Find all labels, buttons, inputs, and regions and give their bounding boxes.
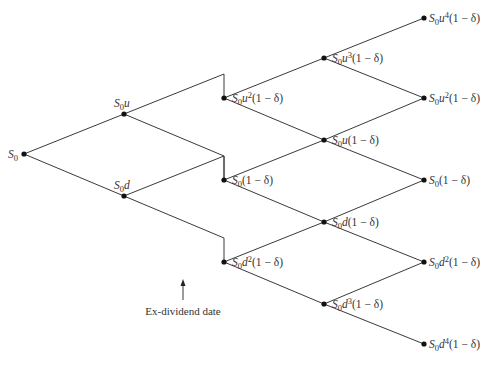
tree-node-n4b	[421, 95, 426, 100]
node-label-n3c: S0d(1 − δ)	[332, 216, 379, 231]
dividend-drop-edge	[124, 74, 224, 114]
node-label-n2b: S0(1 − δ)	[232, 174, 273, 189]
tree-edge	[224, 140, 324, 180]
tree-node-n4e	[421, 341, 426, 346]
node-label-n4e: S0d4(1 − δ)	[429, 336, 480, 353]
tree-edge	[24, 114, 124, 154]
dividend-drop-edge	[124, 114, 224, 180]
node-label-n4d: S0d2(1 − δ)	[429, 254, 480, 271]
tree-node-n3c	[321, 219, 326, 224]
tree-node-n2c	[221, 259, 226, 264]
node-label-n3a: S0u3(1 − δ)	[332, 50, 383, 67]
dividend-jump-edges	[124, 74, 224, 262]
node-label-n3d: S0d3(1 − δ)	[332, 296, 383, 313]
node-labels: S0S0uS0dS0u2(1 − δ)S0(1 − δ)S0d2(1 − δ)S…	[8, 10, 480, 353]
binomial-tree-diagram: S0S0uS0dS0u2(1 − δ)S0(1 − δ)S0d2(1 − δ)S…	[0, 0, 497, 366]
ex-dividend-label: Ex-dividend date	[145, 305, 221, 317]
tree-edge	[24, 154, 124, 196]
node-label-n3b: S0u(1 − δ)	[332, 134, 379, 149]
node-label-n1d: S0d	[114, 179, 130, 194]
node-label-n2c: S0d2(1 − δ)	[232, 254, 283, 271]
tree-node-n3a	[321, 55, 326, 60]
tree-node-n4c	[421, 177, 426, 182]
arrow-up-icon	[181, 279, 186, 286]
tree-node-n3d	[321, 301, 326, 306]
tree-node-n1u	[121, 111, 126, 116]
tree-node-n4d	[421, 259, 426, 264]
dividend-drop-edge	[124, 156, 224, 196]
ex-dividend-annotation: Ex-dividend date	[145, 279, 221, 317]
node-label-n1u: S0u	[114, 97, 130, 112]
dividend-drop-edge	[124, 196, 224, 262]
node-label-n4b: S0u2(1 − δ)	[429, 90, 480, 107]
tree-node-n0	[21, 151, 26, 156]
tree-node-n2b	[221, 177, 226, 182]
tree-node-n2a	[221, 95, 226, 100]
node-label-n0: S0	[8, 148, 18, 163]
tree-node-n3b	[321, 137, 326, 142]
tree-node-n1d	[121, 193, 126, 198]
tree-node-n4a	[421, 15, 426, 20]
node-label-n2a: S0u2(1 − δ)	[232, 90, 283, 107]
node-label-n4c: S0(1 − δ)	[429, 174, 470, 189]
tree-nodes	[21, 15, 426, 346]
node-label-n4a: S0u4(1 − δ)	[429, 10, 480, 27]
